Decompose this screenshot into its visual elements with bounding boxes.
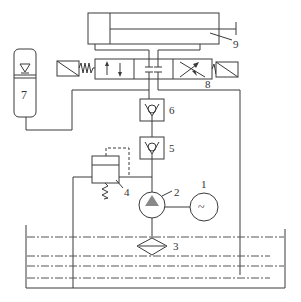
- label-5: 5: [169, 142, 175, 154]
- label-3: 3: [173, 240, 179, 252]
- hydraulic-pump: 2: [139, 186, 190, 218]
- label-4: 4: [124, 186, 130, 198]
- label-9: 9: [233, 38, 239, 50]
- check-valve-5: 5: [140, 137, 175, 159]
- label-2: 2: [174, 186, 180, 198]
- reservoir-tank: [26, 225, 285, 288]
- hydraulic-cylinder: 9: [88, 13, 239, 60]
- solenoid-directional-valve: 8: [57, 59, 238, 90]
- label-7: 7: [21, 88, 27, 102]
- label-6: 6: [169, 104, 175, 116]
- relief-valve: 4: [73, 148, 130, 288]
- filter: 3: [137, 238, 179, 255]
- label-1: 1: [201, 178, 207, 190]
- hydraulic-circuit-diagram: 9 8: [0, 0, 301, 302]
- motor-glyph: ~: [198, 200, 205, 214]
- label-8: 8: [205, 78, 211, 90]
- electric-motor: ~ 1: [190, 178, 218, 221]
- check-valve-6: 6: [140, 99, 175, 121]
